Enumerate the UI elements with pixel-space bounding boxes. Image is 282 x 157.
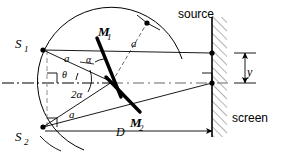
angle-two-alpha-label: 2α bbox=[71, 88, 83, 100]
mirror-2-subscript: 2 bbox=[139, 123, 144, 133]
physics-diagram: source screen M 1 M 2 S 1 S 2 a a a α 2α… bbox=[0, 0, 282, 157]
slit-1-label: S bbox=[15, 36, 22, 51]
screen-hit-point-lower bbox=[209, 80, 214, 85]
ray-s2-to-screen bbox=[43, 83, 212, 127]
angle-theta-label: θ bbox=[62, 69, 67, 80]
screen-hit-point-upper bbox=[209, 50, 214, 55]
radius-line-to-source bbox=[112, 23, 147, 82]
distance-d-label: D bbox=[115, 125, 125, 139]
angle-alpha-label: α bbox=[86, 54, 92, 65]
screen-hatch-fill bbox=[212, 17, 227, 137]
screen-label: screen bbox=[232, 111, 268, 125]
slit-2-label: S bbox=[15, 129, 22, 144]
radius-line-to-s1 bbox=[43, 50, 112, 82]
radius-label-upper-left: a bbox=[64, 52, 70, 64]
angle-arc-alpha bbox=[95, 59, 104, 62]
source-point bbox=[144, 20, 149, 25]
angle-arc-theta bbox=[76, 73, 78, 80]
mirror-1-subscript: 1 bbox=[107, 32, 112, 42]
radius-label-top: a bbox=[131, 37, 137, 49]
offset-y-label: y bbox=[246, 65, 253, 79]
arc-tail-lower bbox=[40, 136, 61, 151]
slit-1-subscript: 1 bbox=[24, 44, 29, 54]
right-angle-mark-left bbox=[47, 73, 57, 83]
radius-label-lower-left: a bbox=[69, 108, 75, 120]
source-label: source bbox=[178, 7, 214, 21]
figure-container: source screen M 1 M 2 S 1 S 2 a a a α 2α… bbox=[0, 0, 282, 157]
slit-2-subscript: 2 bbox=[24, 137, 29, 147]
angle-arc-two-alpha bbox=[88, 70, 91, 92]
